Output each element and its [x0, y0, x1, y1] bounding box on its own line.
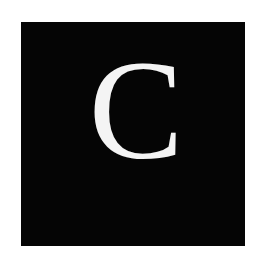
letter-glyph: C — [21, 39, 245, 181]
letter-tile: C — [21, 22, 245, 246]
